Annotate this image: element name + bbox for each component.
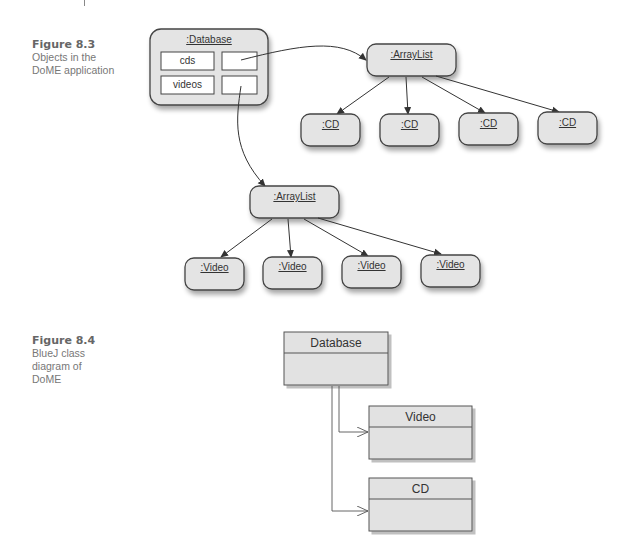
database-class-name: Database bbox=[310, 336, 362, 350]
video-arraylist-label: :ArrayList bbox=[273, 191, 315, 202]
video-object: :Video bbox=[185, 258, 244, 290]
database-to-video-arrow bbox=[339, 386, 368, 432]
video-arraylist-object: :ArrayList bbox=[250, 186, 339, 218]
cd-arraylist-object: :ArrayList bbox=[367, 44, 456, 76]
cd-label: :CD bbox=[480, 118, 497, 129]
diagram-canvas: :Database cds videos :ArrayList :CD :CD … bbox=[0, 0, 639, 554]
cd-label: :CD bbox=[559, 117, 576, 128]
video-object: :Video bbox=[421, 255, 480, 287]
cd-object: :CD bbox=[459, 113, 518, 145]
field-cds: cds bbox=[180, 55, 196, 66]
database-object-label: :Database bbox=[186, 34, 232, 45]
cd-object: :CD bbox=[538, 112, 597, 144]
cd-link-2 bbox=[406, 77, 408, 114]
database-to-cd-arrow bbox=[332, 386, 368, 511]
video-label: :Video bbox=[357, 260, 386, 271]
cd-label: :CD bbox=[322, 119, 339, 130]
cd-link-1 bbox=[337, 77, 389, 114]
video-label: :Video bbox=[200, 262, 229, 273]
cd-class-name: CD bbox=[412, 482, 430, 496]
video-object: :Video bbox=[342, 256, 401, 288]
video-object: :Video bbox=[263, 257, 322, 289]
cd-object: :CD bbox=[380, 114, 439, 146]
cd-link-3 bbox=[422, 77, 485, 113]
video-link-3 bbox=[304, 219, 368, 256]
video-class-name: Video bbox=[405, 410, 436, 424]
field-videos: videos bbox=[173, 79, 202, 90]
database-object: :Database cds videos bbox=[150, 29, 268, 105]
cd-link-4 bbox=[436, 76, 559, 112]
video-link-4 bbox=[318, 218, 441, 254]
database-class: Database bbox=[284, 332, 388, 385]
cd-object: :CD bbox=[301, 114, 360, 146]
video-label: :Video bbox=[436, 259, 465, 270]
cd-arraylist-label: :ArrayList bbox=[390, 49, 432, 60]
video-label: :Video bbox=[278, 261, 307, 272]
cd-class: CD bbox=[369, 478, 472, 531]
video-link-1 bbox=[221, 219, 272, 257]
video-class: Video bbox=[369, 406, 472, 459]
cd-label: :CD bbox=[401, 119, 418, 130]
video-link-2 bbox=[288, 219, 291, 257]
